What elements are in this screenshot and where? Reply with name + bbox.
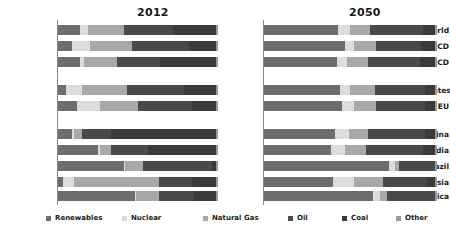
bar-segment-renewables	[264, 129, 335, 139]
bar-segment-other	[435, 177, 437, 187]
bar-segment-other	[216, 101, 218, 111]
bar-segment-renewables	[58, 85, 66, 95]
bar-2012-oecd	[58, 41, 218, 51]
bar-2050-india	[264, 145, 437, 155]
bar-segment-oil	[143, 161, 212, 171]
legend-item-oil[interactable]: Oil	[288, 214, 308, 222]
bar-2050-non-oecd	[264, 57, 437, 67]
bar-segment-other	[216, 57, 218, 67]
bar-segment-coal	[192, 101, 216, 111]
bar-segment-other	[435, 101, 437, 111]
bar-segment-renewables	[58, 41, 72, 51]
bar-segment-other	[216, 177, 218, 187]
bar-segment-oil	[383, 177, 426, 187]
bar-segment-renewables	[58, 129, 72, 139]
bar-segment-renewables	[58, 57, 80, 67]
bar-segment-oil	[368, 57, 420, 67]
bar-segment-natural-gas	[349, 129, 368, 139]
legend-swatch-icon	[46, 216, 51, 221]
bar-segment-nuclear	[342, 101, 354, 111]
bar-segment-other	[435, 145, 437, 155]
bar-segment-renewables	[264, 191, 373, 201]
bar-2012-africa	[58, 191, 218, 201]
bar-segment-natural-gas	[350, 25, 369, 35]
bar-segment-renewables	[264, 145, 331, 155]
bar-segment-renewables	[264, 41, 345, 51]
bar-segment-renewables	[264, 101, 342, 111]
bar-segment-oil	[159, 177, 193, 187]
legend-label: Coal	[351, 214, 368, 222]
bar-segment-nuclear	[77, 101, 99, 111]
bar-segment-natural-gas	[354, 177, 383, 187]
legend-swatch-icon	[396, 216, 401, 221]
bar-2050-africa	[264, 191, 437, 201]
bar-segment-oil	[159, 191, 194, 201]
bar-segment-oil	[124, 25, 174, 35]
legend-label: Renewables	[55, 214, 102, 222]
bar-segment-coal	[192, 177, 216, 187]
bar-segment-coal	[184, 85, 216, 95]
bar-segment-coal	[425, 101, 435, 111]
bar-segment-oil	[111, 145, 148, 155]
bar-segment-coal	[423, 25, 435, 35]
bar-2012-united-states	[58, 85, 218, 95]
bar-segment-oil	[366, 145, 423, 155]
bar-segment-natural-gas	[100, 101, 138, 111]
bar-segment-other	[435, 191, 437, 201]
bar-2050-united-states	[264, 85, 437, 95]
bar-segment-natural-gas	[354, 101, 376, 111]
legend-swatch-icon	[288, 216, 293, 221]
bar-segment-oil	[399, 161, 435, 171]
bar-segment-other	[435, 57, 437, 67]
bar-segment-other	[216, 145, 218, 155]
bar-segment-nuclear	[335, 129, 349, 139]
bar-segment-nuclear	[72, 41, 90, 51]
bar-segment-coal	[420, 57, 436, 67]
bar-segment-oil	[117, 57, 160, 67]
legend-item-other[interactable]: Other	[396, 214, 427, 222]
bar-segment-other	[216, 85, 218, 95]
bar-segment-other	[435, 25, 437, 35]
bar-segment-coal	[160, 57, 216, 67]
bar-segment-coal	[421, 41, 435, 51]
bar-segment-other	[216, 41, 218, 51]
legend-item-natural-gas[interactable]: Natural Gas	[203, 214, 259, 222]
bar-segment-coal	[423, 145, 435, 155]
bar-segment-nuclear	[337, 57, 347, 67]
bar-2012-india	[58, 145, 218, 155]
bar-segment-other	[435, 41, 437, 51]
bar-segment-nuclear	[66, 85, 82, 95]
bar-segment-oil	[138, 101, 192, 111]
legend-swatch-icon	[342, 216, 347, 221]
legend-item-nuclear[interactable]: Nuclear	[122, 214, 161, 222]
bar-segment-nuclear	[63, 177, 74, 187]
bar-segment-renewables	[264, 25, 338, 35]
bar-segment-natural-gas	[90, 41, 132, 51]
bar-2050-brazil	[264, 161, 437, 171]
bar-segment-oil	[387, 191, 435, 201]
bar-2050-oecd	[264, 41, 437, 51]
bar-segment-nuclear	[333, 177, 354, 187]
bar-segment-other	[216, 25, 218, 35]
bar-segment-natural-gas	[84, 57, 118, 67]
legend-label: Nuclear	[131, 214, 161, 222]
bar-segment-renewables	[264, 161, 389, 171]
legend-item-renewables[interactable]: Renewables	[46, 214, 102, 222]
bar-segment-coal	[427, 177, 436, 187]
bar-segment-oil	[127, 85, 185, 95]
bar-2012-non-oecd	[58, 57, 218, 67]
bar-segment-renewables	[58, 191, 135, 201]
bar-segment-natural-gas	[136, 191, 158, 201]
stacked-bar-chart: 2012 2050 WorldOECDNon-OECDUnited States…	[0, 0, 450, 234]
bar-segment-renewables	[264, 57, 337, 67]
bar-2012-eu	[58, 101, 218, 111]
bar-2012-world	[58, 25, 218, 35]
legend-label: Other	[405, 214, 427, 222]
bar-segment-coal	[173, 25, 216, 35]
bar-segment-nuclear	[389, 161, 396, 171]
bar-segment-nuclear	[331, 145, 345, 155]
bar-segment-coal	[425, 85, 435, 95]
legend-swatch-icon	[203, 216, 208, 221]
legend-item-coal[interactable]: Coal	[342, 214, 368, 222]
bar-2050-eu	[264, 101, 437, 111]
